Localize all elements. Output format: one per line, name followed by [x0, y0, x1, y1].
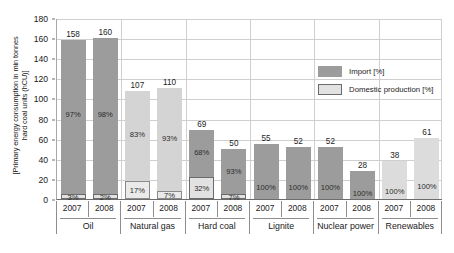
x-axis-year-separator	[410, 201, 411, 217]
bar-natural-gas-2007	[125, 91, 150, 199]
y-axis-tick: 120	[34, 74, 48, 84]
bar-total-label: 110	[150, 78, 190, 87]
x-axis-year-label: 2008	[88, 203, 120, 217]
x-axis-group-rule	[382, 218, 438, 219]
x-axis-group-rule	[60, 218, 116, 219]
x-axis-year-label: 2008	[217, 203, 249, 217]
bar-total-label: 69	[182, 120, 222, 129]
bar-total-label: 38	[375, 151, 415, 160]
y-axis-tick: 180	[34, 14, 48, 24]
x-axis-group-tick	[313, 201, 314, 234]
x-axis-year-label: 2008	[153, 203, 185, 217]
group-separator-line	[379, 19, 380, 199]
y-axis-tick: 140	[34, 54, 48, 64]
x-axis-group-tick	[249, 201, 250, 234]
y-axis-tick-mark	[52, 159, 55, 160]
x-axis-group-tick	[120, 201, 121, 234]
x-axis-year-label: 2008	[410, 203, 442, 217]
legend: Import [%] Domestic production [%]	[318, 62, 434, 98]
bar-total-label: 160	[85, 28, 125, 37]
bar-total-label: 52	[310, 137, 350, 146]
x-axis-year-label: 2008	[281, 203, 313, 217]
x-axis-group-tick	[185, 201, 186, 234]
x-axis-year-separator	[281, 201, 282, 217]
y-axis-tick-mark	[52, 19, 55, 20]
x-axis: 20072008Oil20072008Natural gas20072008Ha…	[56, 200, 442, 253]
y-axis-tick: 80	[38, 115, 48, 125]
y-axis-tick: 60	[38, 135, 48, 145]
x-axis-year-separator	[346, 201, 347, 217]
x-axis-year-label: 2007	[378, 203, 410, 217]
x-axis-year-label: 2008	[346, 203, 378, 217]
x-axis-group-tick	[56, 201, 57, 234]
legend-item-domestic: Domestic production [%]	[318, 80, 434, 98]
y-axis-tick-mark	[52, 179, 55, 180]
plot-right-border	[441, 19, 442, 199]
y-axis-tick: 40	[38, 155, 48, 165]
bar-import-percent-label: 98%	[85, 110, 125, 119]
y-axis-tick: 100	[34, 94, 48, 104]
x-axis-group-tick	[378, 201, 379, 234]
x-axis-year-label: 2007	[313, 203, 345, 217]
bar-oil-2007	[61, 40, 86, 199]
legend-label-domestic: Domestic production [%]	[349, 85, 434, 94]
y-axis-tick-mark	[52, 59, 55, 60]
x-axis-group-label: Renewables	[372, 221, 448, 235]
x-axis-year-separator	[217, 201, 218, 217]
x-axis-group-rule	[317, 218, 373, 219]
group-separator-line	[314, 19, 315, 199]
bar-total-label: 28	[343, 161, 383, 170]
bar-natural-gas-2008	[157, 88, 182, 199]
x-axis-year-label: 2007	[185, 203, 217, 217]
x-axis-year-separator	[153, 201, 154, 217]
bar-import-percent-label: 93%	[214, 167, 254, 176]
x-axis-year-label: 2007	[249, 203, 281, 217]
legend-item-import: Import [%]	[318, 62, 434, 80]
bar-import-percent-label: 68%	[182, 148, 222, 157]
y-axis-tick-labels: 020406080100120140160180	[0, 0, 52, 181]
bar-total-label: 61	[407, 128, 447, 137]
x-axis-group-rule	[124, 218, 180, 219]
y-axis-tick: 20	[38, 175, 48, 185]
y-axis-tick-mark	[52, 139, 55, 140]
y-axis-tick-mark	[52, 79, 55, 80]
x-axis-group-rule	[253, 218, 309, 219]
x-axis-group-tick	[441, 201, 442, 234]
legend-swatch-domestic-icon	[318, 84, 342, 95]
y-axis-tick: 160	[34, 34, 48, 44]
x-axis-year-label: 2007	[120, 203, 152, 217]
plot-area: 15897%3%16098%2%10783%17%11093%7%6968%32…	[56, 19, 442, 200]
y-axis-tick-mark	[52, 119, 55, 120]
bar-import-percent-label: 93%	[150, 134, 190, 143]
bar-domestic-percent-label: 100%	[407, 182, 447, 191]
y-axis-tick-mark	[52, 99, 55, 100]
legend-label-import: Import [%]	[349, 67, 385, 76]
chart-root: [Primary energy consumption in min tonne…	[0, 0, 454, 253]
y-axis-tick: 0	[43, 195, 48, 205]
x-axis-year-separator	[88, 201, 89, 217]
group-separator-line	[186, 19, 187, 199]
legend-swatch-import-icon	[318, 66, 342, 77]
x-axis-group-rule	[189, 218, 245, 219]
x-axis-year-label: 2007	[56, 203, 88, 217]
